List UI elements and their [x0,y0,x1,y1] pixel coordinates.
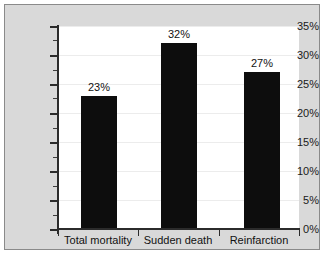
y-axis-minor-tick [53,98,57,99]
category-label: Sudden death [138,234,218,247]
y-axis-minor-tick [53,186,57,187]
bar-chart-figure: 0%5%10%15%20%25%30%35% Total mortalitySu… [4,4,320,250]
y-axis-minor-tick [53,128,57,129]
y-axis-tick [50,142,57,144]
category-separator [299,230,300,236]
bar-value-label: 23% [79,82,119,93]
y-axis-tick-label: 5% [277,195,319,206]
x-axis-line [57,228,300,230]
y-axis-tick [50,229,57,231]
y-axis-tick [50,84,57,86]
y-axis-minor-tick [53,70,57,71]
bar [81,96,117,229]
y-axis-line [57,25,59,234]
y-axis-tick [50,200,57,202]
y-axis-tick [50,113,57,115]
bar-value-label: 32% [159,29,199,40]
gridline [58,26,299,27]
y-axis-tick-label: 35% [277,21,319,32]
y-axis-tick-label: 20% [277,108,319,119]
y-axis-minor-tick [53,157,57,158]
y-axis-tick [50,171,57,173]
y-axis-tick [50,55,57,57]
y-axis-tick-label: 10% [277,166,319,177]
category-label: Reinfarction [219,234,299,247]
bar-value-label: 27% [242,58,282,69]
y-axis-minor-tick [53,215,57,216]
bar [244,72,280,229]
y-axis-minor-tick [53,40,57,41]
y-axis-tick-label: 25% [277,79,319,90]
bar [161,43,197,229]
y-axis-tick-label: 15% [277,137,319,148]
category-label: Total mortality [58,234,138,247]
y-axis-tick-label: 30% [277,50,319,61]
y-axis-tick [50,26,57,28]
